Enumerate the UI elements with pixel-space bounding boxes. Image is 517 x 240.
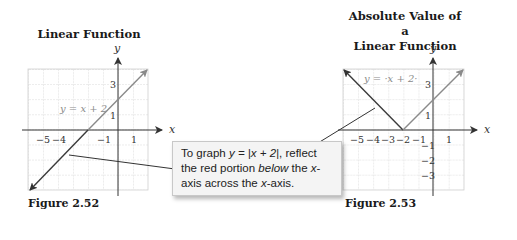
y-tick-right: −2 [421,155,435,166]
y-tick-right: 3 [425,79,431,90]
x-tick-left: −1 [97,134,111,145]
x-tick-right: −3 [381,134,395,145]
callout-text-1: To graph [181,147,229,159]
figure-left-caption: Figure 2.52 [28,197,99,210]
x-tick-right: −2 [396,134,410,145]
callout-note: To graph y = |x + 2|, reflect the red po… [172,141,342,196]
y-tick-left: 1 [110,110,116,121]
y-tick-right: 1 [425,110,431,121]
callout-text-3: the [288,162,310,174]
x-tick-right: −4 [366,134,380,145]
callout-emphasis: below [258,162,288,174]
x-axis-label-left: x [169,123,176,136]
y-axis-label-left: y [113,42,121,55]
x-tick-right: −5 [350,134,364,145]
y-tick-right: −1 [421,140,435,151]
x-tick-right: 1 [446,134,452,145]
y-axis-label-right: y [429,42,437,55]
x-axis-label-right: x [484,123,491,136]
x-tick-left: −5 [36,134,50,145]
equation-label-right: y = ·x + 2· [363,73,417,84]
callout-text-5: -axis. [267,177,294,189]
figure-right-caption: Figure 2.53 [345,197,416,210]
equation-label-left: y = x + 2 [59,103,107,114]
callout-equation: y = |x + 2| [229,147,279,159]
x-tick-left: −4 [52,134,66,145]
y-tick-left: 3 [110,79,116,90]
x-tick-left: 1 [131,134,137,145]
y-tick-right: −3 [421,170,435,181]
figure-left-graph [22,58,175,196]
